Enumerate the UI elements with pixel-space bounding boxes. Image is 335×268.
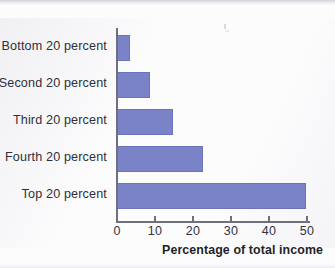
category-label: Bottom 20 percent (0, 39, 116, 53)
x-tick-label: 0 (97, 224, 137, 238)
x-tick (230, 216, 232, 222)
scan-artifact-bottom (0, 264, 335, 268)
x-axis-title: Percentage of total income (0, 243, 323, 257)
x-axis-line (116, 221, 310, 223)
bar (117, 35, 130, 61)
category-label: Second 20 percent (0, 76, 116, 90)
bar (117, 109, 173, 135)
x-tick (268, 216, 270, 222)
bar-row: Second 20 percent (0, 72, 335, 98)
category-label: Top 20 percent (0, 187, 116, 201)
x-tick-label: 40 (249, 224, 289, 238)
bar-row: Top 20 percent (0, 183, 335, 209)
plot-area: Bottom 20 percentSecond 20 percentThird … (0, 0, 335, 268)
bar (117, 72, 150, 98)
y-axis-line (116, 28, 118, 222)
bar (117, 146, 203, 172)
bar-row: Third 20 percent (0, 109, 335, 135)
x-tick (306, 216, 308, 222)
x-tick-label: 20 (173, 224, 213, 238)
x-tick (192, 216, 194, 222)
chart-figure: Bottom 20 percentSecond 20 percentThird … (0, 0, 335, 268)
x-tick (154, 216, 156, 222)
x-tick-label: 50 (287, 224, 327, 238)
bar-row: Bottom 20 percent (0, 35, 335, 61)
bar-row: Fourth 20 percent (0, 146, 335, 172)
x-tick-label: 30 (211, 224, 251, 238)
x-tick (116, 216, 118, 222)
category-label: Third 20 percent (0, 113, 116, 127)
x-tick-label: 10 (135, 224, 175, 238)
bar (117, 183, 306, 209)
category-label: Fourth 20 percent (0, 150, 116, 164)
